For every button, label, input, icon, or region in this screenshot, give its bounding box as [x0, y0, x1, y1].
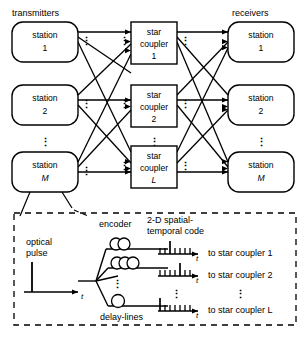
- star-coupler-2[interactable]: star coupler 2: [131, 85, 177, 127]
- station-label-line1: station: [32, 160, 58, 170]
- pulse-trains-ellipsis: ⋮: [171, 288, 182, 300]
- pulse-train-1: t: [158, 241, 199, 263]
- sc1-input-ellipsis: ⋮: [119, 35, 130, 47]
- coupler-label-line3: L: [152, 175, 157, 185]
- optical-pulse-label-line2: pulse: [26, 248, 48, 258]
- coupler-label-line2: coupler: [140, 102, 168, 112]
- coupler-label-line3: 2: [152, 114, 157, 124]
- pulse-train-3-time-label: t: [196, 311, 199, 320]
- receivers-label: receivers: [232, 8, 269, 18]
- sc1-port-ellipsis: ⋮: [180, 35, 191, 47]
- network-architecture-figure: transmitters receivers: [0, 0, 308, 340]
- station-label-line1: station: [248, 30, 274, 40]
- optical-pulse-waveform: [24, 262, 78, 292]
- pulse-train-2-time-label: t: [196, 276, 199, 285]
- output-label-coupler-2: to star coupler 2: [208, 270, 273, 280]
- output-label-coupler-1: to star coupler 1: [208, 248, 273, 258]
- transmitter-station-M[interactable]: station M: [12, 152, 78, 192]
- delay-lines-ellipsis: ⋮: [112, 278, 123, 290]
- delay-line-2: [108, 257, 168, 269]
- receiver-station-2[interactable]: station 2: [228, 85, 294, 125]
- transmitters-row-ellipsis: ⋮: [40, 136, 51, 148]
- star-coupler-1[interactable]: star coupler 1: [131, 22, 177, 64]
- encoder-label: encoder: [99, 219, 132, 229]
- optical-pulse-label-line1: optical: [26, 237, 52, 247]
- scL-port-ellipsis: ⋮: [180, 160, 191, 172]
- star-coupler-L[interactable]: star coupler L: [131, 146, 177, 188]
- pulse-train-1-time-label: t: [196, 254, 199, 263]
- tx1-port-ellipsis: ⋮: [81, 35, 92, 47]
- station-label-line2: 2: [43, 106, 48, 116]
- station-label-line1: station: [32, 30, 58, 40]
- coupler-label-line2: coupler: [140, 163, 168, 173]
- scL-input-ellipsis: ⋮: [119, 160, 130, 172]
- delay-lines-label: delay-lines: [100, 312, 144, 322]
- transmitter-station-2[interactable]: station 2: [12, 85, 78, 125]
- code-label-line2: temporal code: [147, 226, 204, 236]
- station-label-line2: 2: [259, 106, 264, 116]
- receiver-station-1[interactable]: station 1: [228, 22, 294, 62]
- coupler-label-line1: star: [147, 151, 161, 161]
- code-label-line1: 2-D spatial-: [147, 215, 193, 225]
- station-label-line2: M: [41, 173, 49, 183]
- receiver-station-M[interactable]: station M: [228, 152, 294, 192]
- station-label-line1: station: [32, 93, 58, 103]
- tx2-port-ellipsis: ⋮: [81, 98, 92, 110]
- transmitter-station-1[interactable]: station 1: [12, 22, 78, 62]
- sc2-input-ellipsis: ⋮: [119, 98, 130, 110]
- station-label-line2: 1: [259, 43, 264, 53]
- coupler-label-line1: star: [147, 27, 161, 37]
- pulse-train-2: t: [158, 263, 199, 285]
- delay-line-1: [106, 238, 168, 250]
- station-label-line1: station: [248, 160, 274, 170]
- sc2-port-ellipsis: ⋮: [180, 98, 191, 110]
- txM-port-ellipsis: ⋮: [81, 165, 92, 177]
- pulse-time-axis-label: t: [81, 292, 84, 301]
- receivers-row-ellipsis: ⋮: [256, 136, 267, 148]
- coupler-label-line3: 1: [152, 51, 157, 61]
- station-label-line2: 1: [43, 43, 48, 53]
- outputs-ellipsis: ⋮: [235, 288, 246, 300]
- transmitters-label: transmitters: [12, 8, 60, 18]
- station-label-line2: M: [257, 173, 265, 183]
- station-label-line1: station: [248, 93, 274, 103]
- coupler-label-line2: coupler: [140, 39, 168, 49]
- coupler-label-line1: star: [147, 90, 161, 100]
- pulse-train-3: t: [158, 298, 199, 320]
- output-label-coupler-L: to star coupler L: [208, 305, 273, 315]
- delay-line-3: [108, 295, 168, 308]
